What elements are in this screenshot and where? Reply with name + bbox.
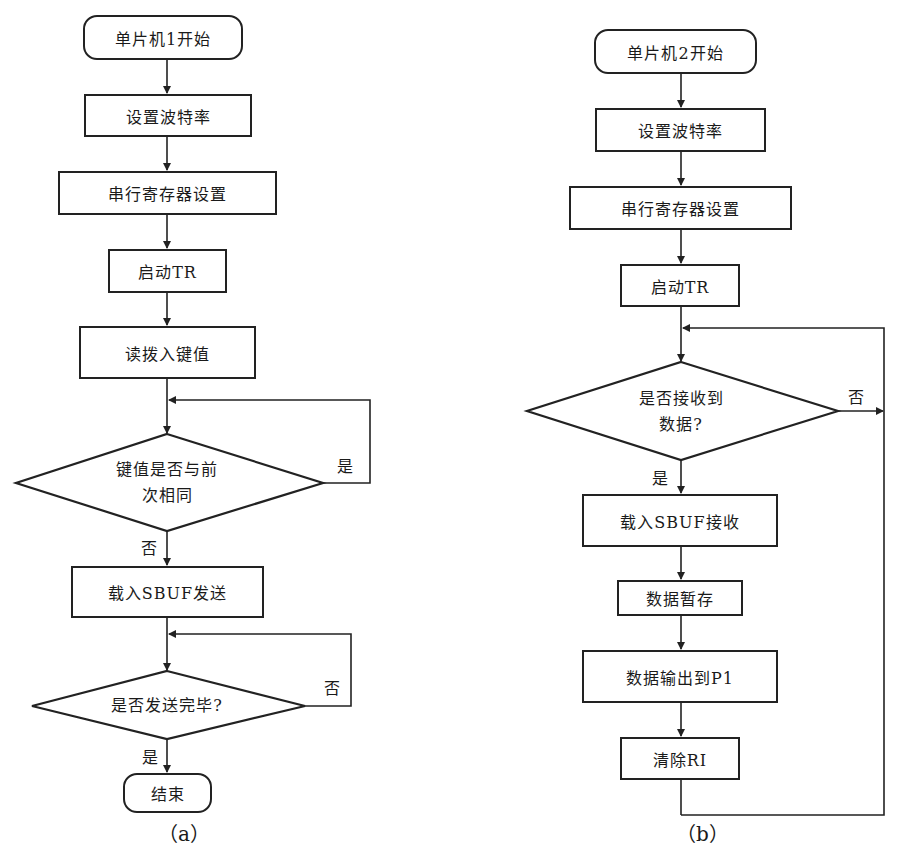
b-decision-recv-line2: 数据? (581, 412, 781, 438)
b-load-recv-box: 载入SBUF接收 (582, 494, 778, 547)
a-set-baud-box: 设置波特率 (84, 94, 252, 137)
a-decision-same-text: 键值是否与前 次相同 (67, 457, 267, 509)
a-start-label: 单片机1开始 (115, 26, 211, 50)
b-serial-reg-label: 串行寄存器设置 (621, 196, 740, 220)
b-decision-recv-yes-label: 是 (652, 465, 668, 489)
a-start-terminal: 单片机1开始 (83, 15, 243, 60)
a-decision-same-yes-label: 是 (337, 453, 353, 477)
a-decision-sent-line: 是否发送完毕? (67, 693, 267, 719)
b-start-tr-box: 启动TR (620, 264, 740, 307)
a-start-tr-box: 启动TR (108, 249, 227, 293)
b-serial-reg-box: 串行寄存器设置 (569, 186, 792, 230)
caption-b: （b） (676, 818, 729, 847)
b-start-label: 单片机2开始 (627, 40, 723, 64)
b-data-output-label: 数据输出到P1 (626, 665, 734, 689)
a-serial-reg-box: 串行寄存器设置 (58, 171, 277, 215)
b-decision-recv-line1: 是否接收到 (581, 386, 781, 412)
caption-a: （a） (158, 818, 210, 847)
a-start-tr-label: 启动TR (138, 259, 197, 283)
a-end-label: 结束 (151, 781, 185, 805)
a-end-terminal: 结束 (123, 773, 212, 813)
b-clear-ri-box: 清除RI (620, 737, 740, 780)
b-set-baud-box: 设置波特率 (595, 108, 766, 152)
b-start-tr-label: 启动TR (651, 274, 710, 298)
b-data-store-box: 数据暂存 (617, 580, 743, 616)
a-read-key-label: 读拨入键值 (125, 341, 210, 365)
b-decision-recv-no-label: 否 (848, 384, 864, 408)
b-set-baud-label: 设置波特率 (638, 118, 723, 142)
a-decision-same-no-label: 否 (141, 535, 157, 559)
a-decision-sent-no-label: 否 (324, 675, 340, 699)
a-decision-same-line1: 键值是否与前 (67, 457, 267, 483)
b-clear-ri-label: 清除RI (653, 747, 707, 771)
b-start-terminal: 单片机2开始 (594, 29, 757, 74)
a-decision-same-line2: 次相同 (67, 483, 267, 509)
b-data-output-box: 数据输出到P1 (582, 650, 778, 703)
b-load-recv-label: 载入SBUF接收 (620, 509, 739, 533)
b-decision-recv-text: 是否接收到 数据? (581, 386, 781, 438)
a-read-key-box: 读拨入键值 (79, 326, 256, 379)
a-load-send-box: 载入SBUF发送 (71, 566, 264, 618)
a-set-baud-label: 设置波特率 (126, 104, 211, 128)
a-decision-sent-yes-label: 是 (142, 744, 158, 768)
a-decision-sent-text: 是否发送完毕? (67, 693, 267, 719)
b-data-store-label: 数据暂存 (646, 586, 714, 610)
a-load-send-label: 载入SBUF发送 (108, 580, 227, 604)
a-serial-reg-label: 串行寄存器设置 (108, 181, 227, 205)
